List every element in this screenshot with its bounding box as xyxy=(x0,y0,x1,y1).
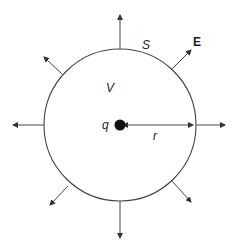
radius-label: r xyxy=(153,129,158,143)
gauss-diagram: S E V q r xyxy=(0,0,233,247)
charge-label: q xyxy=(102,118,109,132)
field-arrow-upper-right xyxy=(172,50,191,69)
surface-label: S xyxy=(142,38,150,52)
field-arrow-lower-left xyxy=(50,186,68,205)
field-arrow-lower-right xyxy=(172,181,191,202)
volume-label: V xyxy=(106,81,115,95)
point-charge xyxy=(115,120,126,131)
field-label: E xyxy=(193,35,201,49)
field-arrow-upper-left xyxy=(44,57,62,74)
